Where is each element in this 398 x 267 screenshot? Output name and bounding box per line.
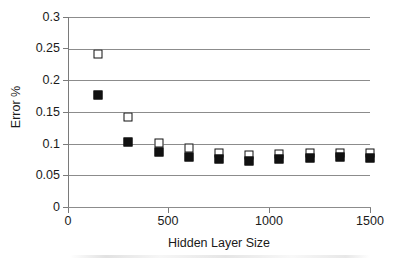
data-point-filled-square xyxy=(154,147,163,156)
data-point-filled-square xyxy=(94,91,103,100)
x-tick-mark xyxy=(269,208,270,213)
scan-artifact xyxy=(70,255,370,258)
data-point-filled-square xyxy=(305,153,314,162)
y-tick-label: 0.25 xyxy=(36,42,60,55)
x-tick-mark xyxy=(68,208,69,213)
gridline xyxy=(68,175,370,176)
y-tick-label: 0.2 xyxy=(43,74,60,87)
data-point-open-square xyxy=(94,49,103,58)
data-point-filled-square xyxy=(335,153,344,162)
x-axis-title: Hidden Layer Size xyxy=(68,236,370,250)
y-axis-title: Error % xyxy=(9,67,23,147)
data-point-open-square xyxy=(154,138,163,147)
x-tick-label: 500 xyxy=(158,215,179,228)
data-point-filled-square xyxy=(215,154,224,163)
y-axis-line xyxy=(68,17,69,208)
y-tick-label: 0.05 xyxy=(36,169,60,182)
gridline xyxy=(68,112,370,113)
data-point-filled-square xyxy=(184,153,193,162)
x-tick-label: 1000 xyxy=(255,215,283,228)
y-tick-label: 0.1 xyxy=(43,138,60,151)
gridline xyxy=(68,17,370,18)
x-tick-label: 0 xyxy=(65,215,72,228)
y-tick-label: 0.3 xyxy=(43,11,60,24)
plot-area xyxy=(68,17,370,207)
scatter-chart: 0.3 0.25 0.2 0.15 0.1 0.05 0 0 500 1000 … xyxy=(0,0,398,267)
y-tick-label: 0.15 xyxy=(36,106,60,119)
data-point-filled-square xyxy=(366,153,375,162)
data-point-filled-square xyxy=(124,138,133,147)
data-point-open-square xyxy=(124,112,133,121)
gridline xyxy=(68,49,370,50)
x-tick-label: 1500 xyxy=(356,215,384,228)
y-tick-label: 0 xyxy=(53,201,60,214)
data-point-filled-square xyxy=(275,154,284,163)
x-axis-line xyxy=(68,207,371,208)
gridline xyxy=(68,144,370,145)
gridline xyxy=(68,80,370,81)
data-point-filled-square xyxy=(245,157,254,166)
x-tick-mark xyxy=(370,208,371,213)
data-point-open-square xyxy=(184,144,193,153)
x-tick-mark xyxy=(168,208,169,213)
